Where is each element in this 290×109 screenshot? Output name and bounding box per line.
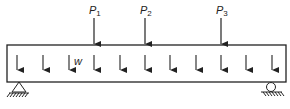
pin-support-icon xyxy=(7,82,29,97)
point-load-arrows xyxy=(94,18,221,44)
label-w: w xyxy=(74,56,82,67)
distributed-load-arrows xyxy=(17,55,272,70)
label-p3: P3 xyxy=(216,5,228,19)
label-p2: P2 xyxy=(140,5,152,19)
roller-support-icon xyxy=(261,83,284,97)
label-p1: P1 xyxy=(89,5,101,19)
beam xyxy=(7,45,286,82)
